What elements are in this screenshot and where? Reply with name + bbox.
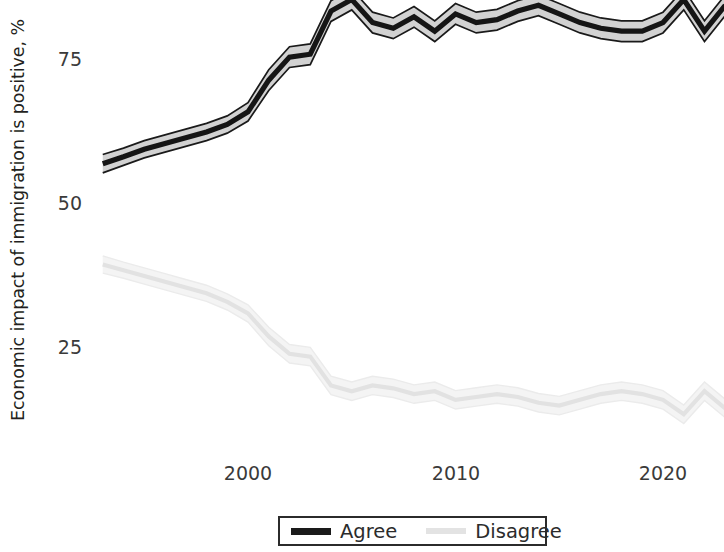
legend-swatch-agree-icon xyxy=(291,528,331,535)
chart-legend: Agree Disagree xyxy=(278,516,547,546)
legend-item-disagree[interactable]: Disagree xyxy=(426,518,562,544)
legend-label-disagree: Disagree xyxy=(475,520,562,543)
series-agree xyxy=(103,0,724,173)
series-disagree xyxy=(103,256,724,424)
disagree-confidence-band xyxy=(103,256,724,424)
legend-item-agree[interactable]: Agree xyxy=(291,518,397,544)
agree-confidence-band xyxy=(103,0,724,173)
line-chart: Economic impact of immigration is positi… xyxy=(0,0,724,552)
disagree-band-upper-edge xyxy=(103,256,724,405)
legend-swatch-disagree-icon xyxy=(426,528,466,534)
legend-label-agree: Agree xyxy=(340,520,397,543)
plot-area xyxy=(0,0,724,552)
